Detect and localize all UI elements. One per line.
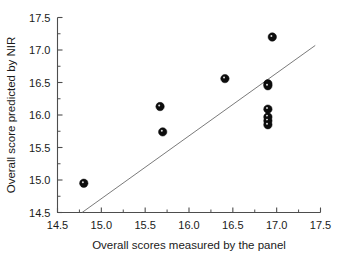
data-point	[264, 121, 272, 129]
y-tick-label: 17.5	[29, 12, 50, 24]
data-point	[221, 74, 229, 82]
y-tick-label: 14.5	[29, 207, 50, 219]
axis-labels: 14.515.015.516.016.517.017.514.515.015.5…	[5, 12, 331, 251]
data-point	[156, 102, 164, 110]
x-tick-label: 15.0	[91, 219, 112, 231]
x-tick-label: 17.0	[266, 219, 287, 231]
axis-frame	[58, 18, 321, 213]
y-tick-label: 16.0	[29, 109, 50, 121]
data-point-highlight	[266, 123, 268, 125]
y-axis-title: Overall score predicted by NIR	[5, 37, 17, 194]
y-tick-label: 15.5	[29, 142, 50, 154]
data-point-highlight	[266, 107, 268, 109]
scatter-chart: 14.515.015.516.016.517.017.514.515.015.5…	[0, 0, 339, 261]
fit-line	[82, 45, 315, 212]
regression-line	[82, 45, 315, 212]
axes	[58, 18, 321, 213]
data-point-highlight	[161, 130, 163, 132]
data-point-highlight	[158, 104, 160, 106]
x-tick-label: 16.5	[222, 219, 243, 231]
y-tick-label: 16.5	[29, 77, 50, 89]
y-tick-label: 15.0	[29, 174, 50, 186]
plot-area: 14.515.015.516.016.517.017.514.515.015.5…	[0, 0, 339, 261]
data-point-highlight	[223, 77, 225, 79]
x-axis-title: Overall scores measured by the panel	[92, 239, 286, 251]
data-point-highlight	[266, 84, 268, 86]
x-tick-label: 15.5	[134, 219, 155, 231]
x-tick-label: 17.5	[310, 219, 331, 231]
data-point	[80, 179, 88, 187]
data-point-highlight	[82, 181, 84, 183]
data-point	[268, 33, 276, 41]
x-tick-label: 16.0	[178, 219, 199, 231]
data-point-highlight	[270, 35, 272, 37]
y-tick-label: 17.0	[29, 44, 50, 56]
data-point	[264, 105, 272, 113]
data-point	[159, 128, 167, 136]
x-tick-label: 14.5	[47, 219, 68, 231]
data-points	[80, 33, 277, 188]
data-point	[264, 82, 272, 90]
